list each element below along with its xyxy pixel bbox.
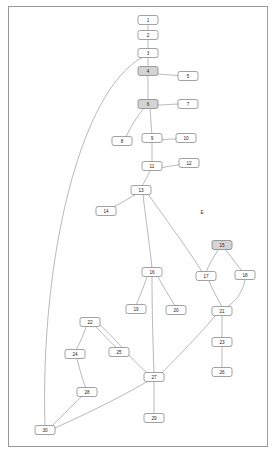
graph-node[interactable]: 4	[138, 67, 158, 76]
graph-svg: 1234567891011121314151617181920212223242…	[0, 0, 278, 455]
edge-16-19	[136, 277, 147, 305]
node-label: 9	[151, 136, 154, 141]
node-label: 2	[147, 33, 150, 38]
edge-15-17	[206, 250, 218, 272]
graph-node[interactable]: 14	[96, 207, 116, 216]
graph-node[interactable]: 12	[179, 159, 199, 168]
graph-node[interactable]: 27	[144, 373, 164, 382]
edge-6-8	[126, 109, 143, 137]
graph-node[interactable]: 8	[112, 137, 132, 146]
node-label: 18	[242, 273, 248, 278]
node-label: 23	[219, 340, 225, 345]
graph-node[interactable]: 26	[212, 368, 232, 377]
node-label: 13	[138, 188, 144, 193]
node-label: 16	[149, 270, 155, 275]
edge-24-28	[77, 359, 86, 388]
graph-node[interactable]: 3	[138, 49, 158, 58]
node-label: 19	[133, 307, 139, 312]
node-label: 5	[187, 74, 190, 79]
node-label: 27	[151, 375, 157, 380]
edge-6-7	[158, 104, 179, 105]
node-label: 22	[87, 320, 93, 325]
graph-node[interactable]: 6	[138, 100, 158, 109]
graph-node[interactable]: 28	[77, 388, 97, 397]
diagram-canvas: 1234567891011121314151617181920212223242…	[0, 0, 278, 455]
edge-16-20	[158, 277, 175, 306]
node-label: 21	[219, 309, 225, 314]
graph-node[interactable]: 19	[126, 305, 146, 314]
graph-node[interactable]: 23	[212, 338, 232, 347]
graph-node[interactable]: 1	[138, 16, 158, 25]
node-label: 24	[72, 352, 78, 357]
edge-22-25	[96, 327, 117, 348]
node-label: 6	[147, 102, 150, 107]
graph-node[interactable]: 16	[142, 268, 162, 277]
node-label: 15	[219, 243, 225, 248]
graph-node[interactable]: 15	[212, 241, 232, 250]
graph-node[interactable]: 11	[142, 162, 162, 171]
edge-4-5	[158, 74, 180, 76]
node-label: 10	[183, 136, 189, 141]
edge-13-14	[111, 194, 136, 208]
node-label: 3	[147, 51, 150, 56]
graph-node[interactable]: 2	[138, 31, 158, 40]
graph-node[interactable]: 25	[109, 348, 129, 357]
graph-node[interactable]: 24	[65, 350, 85, 359]
edge-30-27	[55, 381, 148, 428]
node-label: 25	[116, 350, 122, 355]
graph-node[interactable]: 18	[235, 271, 255, 280]
graph-node[interactable]: 21	[212, 307, 232, 316]
node-label: 7	[187, 102, 190, 107]
node-label: 20	[173, 308, 179, 313]
graph-node[interactable]: 20	[166, 306, 186, 315]
free-labels-layer: E	[200, 210, 203, 215]
edge-28-30	[51, 396, 82, 427]
edge-21-27	[162, 316, 215, 373]
node-label: 28	[84, 390, 90, 395]
graph-node[interactable]: 30	[35, 426, 55, 435]
edge-18-21	[227, 280, 245, 307]
edge-3-30	[45, 57, 143, 426]
node-label: 11	[150, 164, 155, 169]
node-label: 30	[42, 428, 48, 433]
graph-node[interactable]: 13	[131, 186, 151, 195]
graph-node[interactable]: 22	[80, 318, 100, 327]
graph-node[interactable]: 5	[178, 72, 198, 81]
edge-13-16	[143, 195, 152, 268]
node-label: 17	[203, 274, 209, 279]
node-label: 8	[121, 139, 124, 144]
node-label: 29	[151, 416, 157, 421]
node-label: 14	[103, 209, 109, 214]
graph-node[interactable]: 9	[142, 134, 162, 143]
label-E: E	[200, 210, 203, 215]
edge-16-27	[152, 277, 154, 373]
nodes-layer: 1234567891011121314151617181920212223242…	[35, 16, 255, 435]
edge-22-24	[76, 327, 86, 350]
graph-node[interactable]: 29	[144, 414, 164, 423]
graph-node[interactable]: 17	[196, 272, 216, 281]
edge-17-21	[209, 281, 222, 307]
node-label: 1	[147, 18, 150, 23]
edge-11-13	[142, 171, 150, 186]
node-label: 12	[186, 161, 192, 166]
node-label: 4	[147, 69, 150, 74]
edge-6-9	[150, 109, 152, 134]
graph-node[interactable]: 10	[176, 134, 196, 143]
node-label: 26	[219, 370, 225, 375]
edge-13-17	[148, 194, 202, 272]
graph-node[interactable]: 7	[178, 100, 198, 109]
